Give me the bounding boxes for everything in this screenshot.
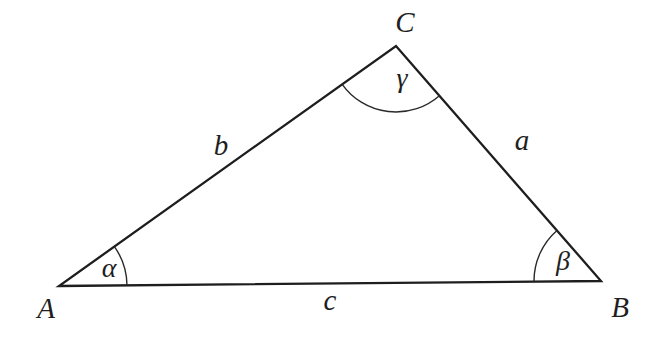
angle-gamma-arc [342, 84, 439, 112]
side-b-label: b [214, 129, 229, 161]
angle-alpha-label: α [102, 252, 118, 283]
side-c-label: c [324, 284, 337, 316]
side-a-label: a [515, 124, 530, 156]
vertex-b-label: B [611, 291, 629, 323]
triangle-figure: A B C a b c α β γ [0, 0, 657, 343]
angle-gamma-label: γ [396, 62, 408, 93]
angle-beta-label: β [555, 245, 570, 276]
triangle-diagram: A B C a b c α β γ [0, 0, 657, 343]
triangle-outline [59, 46, 601, 286]
angle-beta-arc [534, 231, 557, 282]
vertex-c-label: C [395, 6, 415, 38]
vertex-a-label: A [35, 292, 55, 324]
